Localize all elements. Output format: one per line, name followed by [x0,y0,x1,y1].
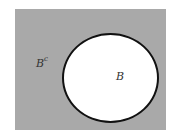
complement-label-sup: c [44,55,48,63]
set-b-label: B [116,70,124,83]
set-b-circle [62,33,159,123]
complement-label: Bc [36,56,48,70]
complement-label-base: B [36,57,44,70]
